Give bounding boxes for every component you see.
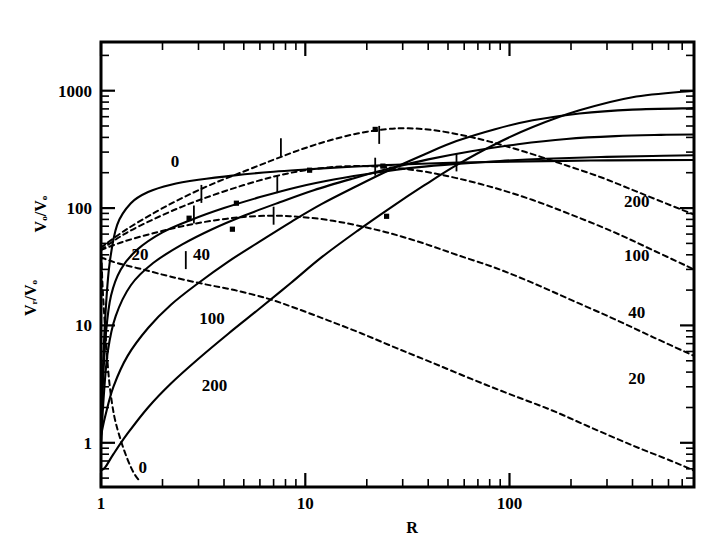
x-tick-label: 10 [297, 494, 314, 513]
y-tick-label: 1000 [58, 82, 92, 101]
chart-figure: 1101001101001000 0204010020002040100200 … [0, 0, 726, 544]
data-point-marker [187, 216, 192, 221]
y-axis-title-primary: Vₒ/Vₒ [32, 195, 49, 232]
curve-label-0: 0 [171, 152, 180, 171]
y-tick-label: 100 [67, 199, 93, 218]
curve-label-20d: 20 [628, 369, 645, 388]
y-tick-label: 1 [84, 434, 93, 453]
curve-label-200: 200 [202, 376, 228, 395]
data-point-marker [234, 201, 239, 206]
data-point-marker [307, 168, 312, 173]
curve-label-20: 20 [131, 245, 148, 264]
y-tick-label: 10 [75, 316, 92, 335]
curve-label-40d: 40 [628, 303, 645, 322]
x-axis-title: R [406, 519, 418, 536]
curve-label-200d: 200 [624, 192, 650, 211]
x-tick-label: 100 [497, 494, 523, 513]
curve-label-0d: 0 [138, 458, 147, 477]
data-point-marker [373, 127, 378, 132]
data-point-marker [384, 214, 389, 219]
data-point-marker [230, 227, 235, 232]
x-tick-label: 1 [97, 494, 106, 513]
y-axis-title-secondary: Vᵣ/Vₒ [22, 279, 39, 316]
curve-label-100: 100 [199, 309, 225, 328]
curve-label-40: 40 [193, 245, 210, 264]
curve-label-100d: 100 [624, 246, 650, 265]
log-log-plot: 1101001101001000 0204010020002040100200 … [0, 0, 726, 544]
data-point-marker [380, 164, 385, 169]
